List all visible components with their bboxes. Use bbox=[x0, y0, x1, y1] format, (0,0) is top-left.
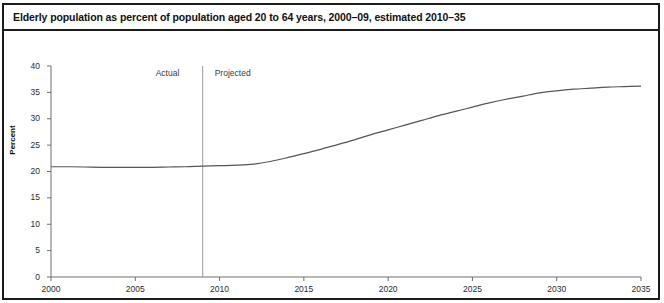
chart-figure: Elderly population as percent of populat… bbox=[0, 0, 664, 303]
y-tick-label: 40 bbox=[14, 62, 40, 71]
x-tick-label: 2035 bbox=[616, 285, 664, 294]
y-tick-label: 0 bbox=[14, 273, 40, 282]
x-tick-label: 2025 bbox=[447, 285, 497, 294]
annotation-projected: Projected bbox=[215, 68, 251, 78]
annotation-actual: Actual bbox=[156, 68, 180, 78]
y-tick-label: 5 bbox=[14, 246, 40, 255]
plot-area: Percent 0510152025303540 200020052010201… bbox=[0, 0, 664, 303]
y-tick-marks bbox=[47, 66, 51, 277]
y-tick-label: 30 bbox=[14, 114, 40, 123]
x-tick-marks bbox=[51, 277, 641, 281]
y-tick-label: 15 bbox=[14, 193, 40, 202]
y-tick-label: 35 bbox=[14, 88, 40, 97]
y-tick-label: 10 bbox=[14, 220, 40, 229]
y-tick-label: 20 bbox=[14, 167, 40, 176]
x-tick-label: 2010 bbox=[195, 285, 245, 294]
x-tick-label: 2020 bbox=[363, 285, 413, 294]
x-tick-label: 2000 bbox=[26, 285, 76, 294]
x-tick-label: 2030 bbox=[532, 285, 582, 294]
line-chart-svg bbox=[0, 0, 664, 303]
y-tick-label: 25 bbox=[14, 141, 40, 150]
x-tick-label: 2015 bbox=[279, 285, 329, 294]
data-series-line bbox=[51, 86, 641, 167]
x-tick-label: 2005 bbox=[110, 285, 160, 294]
